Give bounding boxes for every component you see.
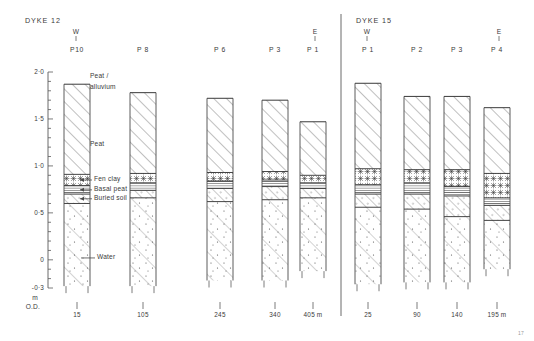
layer-basal_peat	[130, 183, 156, 191]
column-label-dyke-12-0: P10	[70, 46, 84, 53]
layer-peat_alluvium	[484, 108, 510, 155]
layer-buried_soil	[484, 205, 510, 220]
layer-peat	[262, 151, 288, 172]
distance-label-dyke-12-1: 105	[137, 311, 148, 318]
layer-peat_alluvium	[207, 98, 233, 147]
axis-unit-m: m	[32, 294, 38, 301]
column-label-dyke-15-1: P 2	[411, 46, 423, 53]
axis-tick-label-2: 1·0	[34, 162, 44, 169]
borehole-column-dyke-15-3	[484, 108, 510, 277]
layer-basal_peat	[300, 183, 326, 189]
layer-fen_clay	[300, 175, 326, 183]
layer-basal_peat	[355, 185, 381, 194]
layer-peat	[355, 136, 381, 169]
layer-basal_peat	[262, 180, 288, 187]
layer-fen_clay	[355, 169, 381, 185]
column-label-dyke-12-4: P 1	[307, 46, 319, 53]
layer-basal_peat	[207, 181, 233, 189]
layer-peat	[484, 155, 510, 174]
layer-basal_peat	[404, 183, 430, 194]
distance-label-dyke-12-3: 340	[269, 311, 280, 318]
legend-peat-alluvium-line1: Peat /	[90, 72, 108, 79]
borehole-column-dyke-12-2	[207, 98, 233, 287]
layer-peat	[444, 143, 470, 169]
layer-peat	[207, 147, 233, 172]
layer-peat_alluvium	[355, 83, 381, 136]
layer-fen_clay	[130, 173, 156, 182]
column-label-dyke-12-3: P 3	[269, 46, 281, 53]
layer-buried_soil	[207, 188, 233, 201]
panel-title-dyke-15: DYKE 15	[356, 16, 392, 25]
layer-peat	[64, 122, 90, 175]
layer-peat	[300, 164, 326, 175]
distance-label-dyke-15-0: 25	[364, 311, 372, 318]
distance-label-dyke-15-1: 90	[413, 311, 421, 318]
layer-peat_alluvium	[130, 93, 156, 138]
layer-basal_peat	[444, 187, 470, 196]
column-label-dyke-12-2: P 6	[214, 46, 226, 53]
legend-peat-alluvium-line2: alluvium	[90, 83, 116, 90]
legend-fen-clay: Fen clay	[94, 175, 121, 182]
axis-tick-label-3: 0·5	[34, 209, 44, 216]
layer-buried_soil	[444, 196, 470, 217]
layer-peat_alluvium	[262, 100, 288, 151]
axis-unit-od: O.D.	[26, 303, 40, 310]
figure-number: 17	[518, 330, 524, 336]
layer-peat	[404, 145, 430, 169]
layer-buried_soil	[130, 190, 156, 198]
borehole-column-dyke-12-3	[262, 100, 288, 287]
column-label-dyke-15-3: P 4	[491, 46, 503, 53]
layer-peat_alluvium	[404, 96, 430, 145]
borehole-column-dyke-15-2	[444, 96, 470, 289]
legend-basal-peat: Basal peat	[94, 185, 127, 192]
distance-label-dyke-15-3: 195 m	[488, 311, 507, 318]
west-marker-dyke-12: W	[73, 28, 79, 35]
layer-peat_alluvium	[300, 122, 326, 164]
layer-buried_soil	[404, 194, 430, 209]
distance-label-dyke-12-2: 245	[214, 311, 225, 318]
borehole-column-dyke-12-0	[64, 84, 90, 293]
column-label-dyke-15-2: P 3	[451, 46, 463, 53]
column-label-dyke-15-0: P 1	[362, 46, 374, 53]
axis-tick-label-4: 0	[40, 256, 44, 263]
layer-buried_soil	[262, 187, 288, 200]
panel-title-dyke-12: DYKE 12	[25, 16, 61, 25]
layer-peat_alluvium	[444, 96, 470, 143]
distance-label-dyke-12-4: 405 m	[304, 311, 323, 318]
legend-buried-soil: Buried soil	[94, 194, 127, 201]
east-marker-dyke-12: E	[313, 28, 318, 35]
borehole-column-dyke-15-1	[404, 96, 430, 289]
legend-peat: Peat	[90, 140, 104, 147]
distance-label-dyke-12-0: 15	[73, 311, 81, 318]
column-label-dyke-12-1: P 8	[137, 46, 149, 53]
axis-tick-label-0: 2·0	[34, 68, 44, 75]
west-marker-dyke-15: W	[364, 28, 370, 35]
layer-fen_clay	[207, 172, 233, 180]
layer-buried_soil	[300, 188, 326, 197]
east-marker-dyke-15: E	[497, 28, 502, 35]
borehole-column-dyke-15-0	[355, 83, 381, 291]
layer-buried_soil	[355, 194, 381, 207]
layer-basal_peat	[484, 198, 510, 206]
layer-fen_clay	[484, 173, 510, 197]
layer-fen_clay	[444, 170, 470, 187]
axis-tick-label-1: 1·5	[34, 115, 44, 122]
legend-water: Water	[97, 253, 115, 260]
borehole-column-dyke-12-4	[300, 122, 326, 278]
axis-tick-label-5: -0·3	[32, 284, 44, 291]
distance-label-dyke-15-2: 140	[451, 311, 462, 318]
borehole-column-dyke-12-1	[130, 93, 156, 293]
layer-fen_clay	[262, 172, 288, 180]
layer-peat	[130, 138, 156, 174]
layer-fen_clay	[404, 170, 430, 183]
layer-peat_alluvium	[64, 84, 90, 122]
